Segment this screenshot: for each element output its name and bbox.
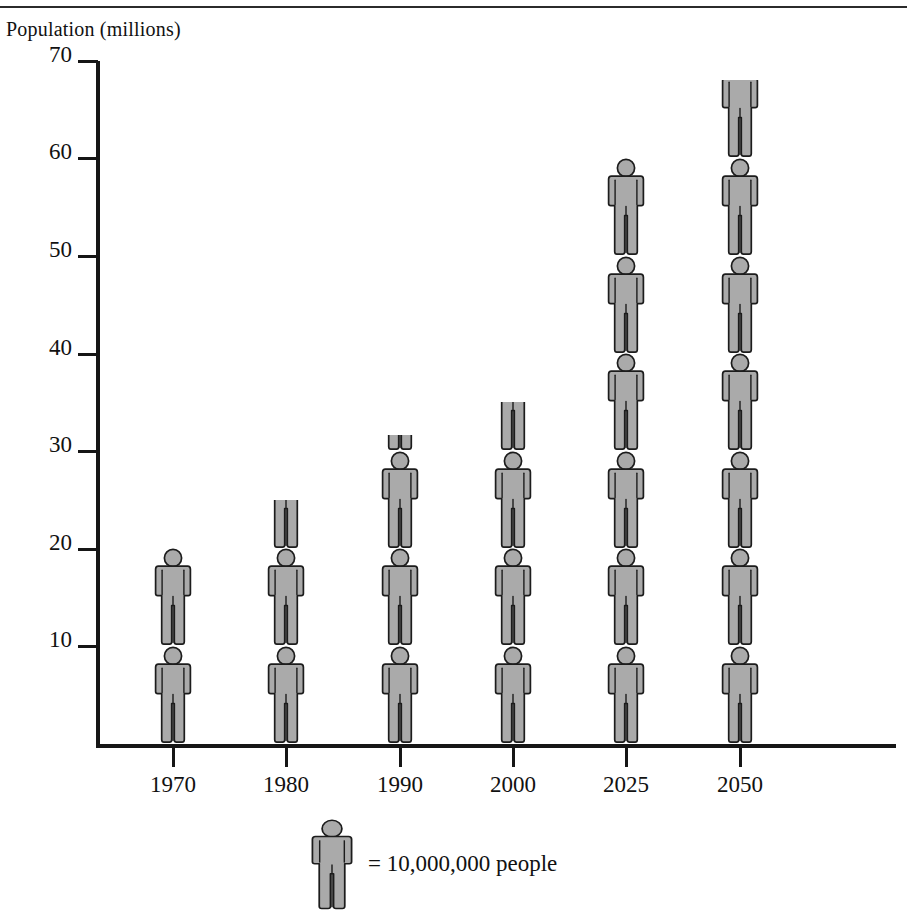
pictograph-partial-unit — [266, 500, 306, 549]
pictograph-unit — [493, 450, 533, 549]
pictograph-plot-area: 10203040506070 197019801990200020252050 — [0, 0, 907, 914]
y-axis-tick-label: 70 — [12, 42, 72, 68]
person-icon — [266, 645, 306, 744]
person-icon — [266, 547, 306, 646]
pictograph-column — [266, 451, 306, 744]
x-axis-tick-label: 1990 — [340, 772, 460, 798]
pictograph-partial-unit — [720, 80, 760, 158]
pictograph-unit — [380, 645, 420, 744]
pictograph-unit — [493, 547, 533, 646]
pictograph-partial-unit — [380, 435, 420, 452]
legend: = 10,000,000 people — [310, 818, 557, 910]
person-icon — [720, 547, 760, 646]
x-axis-tick — [625, 748, 628, 767]
pictograph-unit — [720, 157, 760, 256]
x-axis-line — [96, 744, 896, 748]
x-axis-tick-label: 2025 — [566, 772, 686, 798]
person-icon — [606, 157, 646, 256]
y-axis-tick — [78, 255, 98, 258]
person-icon — [380, 645, 420, 744]
pictograph-column — [606, 158, 646, 744]
person-icon — [153, 645, 193, 744]
person-icon — [720, 450, 760, 549]
pictograph-column — [493, 354, 533, 744]
pictograph-unit — [153, 547, 193, 646]
pictograph-unit — [606, 450, 646, 549]
pictograph-unit — [606, 255, 646, 354]
pictograph-partial-unit — [493, 402, 533, 451]
person-icon — [380, 547, 420, 646]
x-axis-tick-label: 2050 — [680, 772, 800, 798]
pictograph-column — [380, 354, 420, 744]
pictograph-unit — [606, 645, 646, 744]
y-axis-tick — [78, 548, 98, 551]
pictograph-column — [720, 61, 760, 744]
pictograph-unit — [720, 255, 760, 354]
person-icon — [493, 450, 533, 549]
person-icon — [606, 645, 646, 744]
y-axis-tick — [78, 60, 98, 63]
x-axis-tick-label: 1980 — [226, 772, 346, 798]
pictograph-column — [153, 549, 193, 744]
pictograph-unit — [266, 645, 306, 744]
person-icon — [720, 255, 760, 354]
person-icon — [606, 450, 646, 549]
person-icon — [493, 547, 533, 646]
legend-label: = 10,000,000 people — [368, 851, 557, 877]
x-axis-tick-label: 2000 — [453, 772, 573, 798]
y-axis-tick — [78, 645, 98, 648]
y-axis-tick — [78, 157, 98, 160]
person-icon — [606, 255, 646, 354]
x-axis-tick-label: 1970 — [113, 772, 233, 798]
pictograph-unit — [720, 645, 760, 744]
person-icon — [380, 435, 420, 452]
x-axis-tick — [739, 748, 742, 767]
person-icon — [493, 402, 533, 451]
person-icon — [493, 645, 533, 744]
pictograph-unit — [720, 352, 760, 451]
person-icon — [720, 80, 760, 158]
pictograph-unit — [493, 645, 533, 744]
y-axis-tick — [78, 353, 98, 356]
person-icon — [606, 547, 646, 646]
y-axis-tick-label: 20 — [12, 530, 72, 556]
y-axis-tick-label: 10 — [12, 627, 72, 653]
y-axis-tick-label: 60 — [12, 139, 72, 165]
person-icon — [720, 157, 760, 256]
pictograph-unit — [720, 547, 760, 646]
legend-person-icon — [310, 818, 354, 910]
pictograph-unit — [380, 547, 420, 646]
pictograph-unit — [720, 450, 760, 549]
person-icon — [606, 352, 646, 451]
pictograph-unit — [606, 157, 646, 256]
x-axis-tick — [172, 748, 175, 767]
pictograph-unit — [380, 450, 420, 549]
person-icon — [380, 450, 420, 549]
person-icon — [153, 547, 193, 646]
x-axis-tick — [285, 748, 288, 767]
person-icon — [720, 352, 760, 451]
y-axis-tick-label: 50 — [12, 237, 72, 263]
person-icon — [266, 500, 306, 549]
pictograph-unit — [606, 547, 646, 646]
pictograph-unit — [606, 352, 646, 451]
x-axis-tick — [399, 748, 402, 767]
x-axis-tick — [512, 748, 515, 767]
y-axis-tick-label: 40 — [12, 335, 72, 361]
person-icon — [720, 645, 760, 744]
y-axis-tick-label: 30 — [12, 432, 72, 458]
pictograph-unit — [266, 547, 306, 646]
pictograph-unit — [153, 645, 193, 744]
y-axis-tick — [78, 450, 98, 453]
